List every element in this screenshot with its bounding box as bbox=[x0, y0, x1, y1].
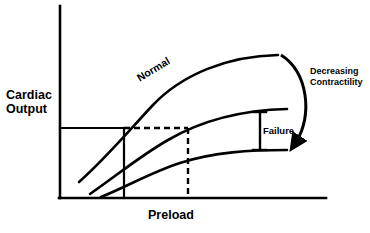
decreasing-contractility-label: DecreasingContractility bbox=[310, 66, 363, 88]
failure-bracket-label: Failure bbox=[263, 126, 294, 137]
x-axis-label: Preload bbox=[148, 208, 194, 222]
curves bbox=[79, 55, 287, 197]
y-axis-label-line1: Cardiac bbox=[6, 88, 52, 102]
curve-failure bbox=[101, 150, 287, 197]
cardiac-function-curve-figure: CardiacOutput Preload Normal Failure Dec… bbox=[0, 0, 370, 233]
y-axis-label-line2: Output bbox=[6, 102, 47, 116]
chart-canvas bbox=[0, 0, 370, 233]
decreasing-contractility-label-line1: Decreasing bbox=[310, 66, 359, 76]
axis-lines bbox=[59, 6, 326, 198]
reference-lines-solid bbox=[60, 128, 124, 198]
y-axis-label: CardiacOutput bbox=[6, 88, 68, 116]
decreasing-contractility-label-line2: Contractility bbox=[310, 77, 363, 87]
